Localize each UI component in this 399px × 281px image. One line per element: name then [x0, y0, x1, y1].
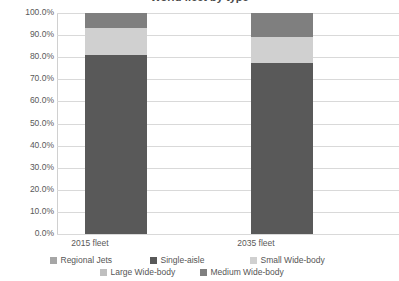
bar-segment[interactable] [85, 28, 147, 55]
legend-item[interactable]: Small Wide-body [250, 255, 350, 265]
x-axis-category-label: 2035 fleet [196, 238, 316, 248]
legend-swatch-icon [200, 269, 207, 276]
legend-item[interactable]: Medium Wide-body [200, 267, 300, 277]
gridline [57, 234, 399, 235]
y-axis-tick-label: 80.0% [2, 52, 54, 61]
legend-item-label: Regional Jets [61, 255, 113, 265]
bar-segment[interactable] [251, 37, 313, 62]
legend-item-label: Large Wide-body [111, 267, 176, 277]
legend-item[interactable]: Single-aisle [150, 255, 250, 265]
bar-column[interactable] [85, 13, 147, 234]
y-axis-tick-label: 20.0% [2, 185, 54, 194]
bar-segment[interactable] [251, 13, 313, 37]
bar-segment[interactable] [251, 63, 313, 234]
legend-item[interactable]: Regional Jets [50, 255, 150, 265]
bar-segment[interactable] [85, 13, 147, 28]
legend-item-label: Single-aisle [161, 255, 205, 265]
legend-row: Large Wide-bodyMedium Wide-body [100, 267, 300, 277]
legend-item[interactable]: Large Wide-body [100, 267, 200, 277]
x-axis-category-label: 2015 fleet [30, 238, 150, 248]
legend-swatch-icon [100, 269, 107, 276]
legend-row: Regional JetsSingle-aisleSmall Wide-body [50, 255, 350, 265]
y-axis-tick-label: 0.0% [2, 229, 54, 238]
chart-title: World fleet by type [0, 0, 399, 3]
y-axis-tick-label: 100.0% [2, 8, 54, 17]
bar-segment[interactable] [85, 55, 147, 234]
stacked-column-chart: World fleet by type 100.0%90.0%80.0%70.0… [0, 0, 399, 281]
bar-column[interactable] [251, 13, 313, 234]
chart-legend: Regional JetsSingle-aisleSmall Wide-body… [0, 255, 399, 277]
legend-item-label: Medium Wide-body [211, 267, 284, 277]
legend-item-label: Small Wide-body [261, 255, 325, 265]
y-axis-tick-label: 90.0% [2, 30, 54, 39]
y-axis-tick-label: 50.0% [2, 119, 54, 128]
y-axis-tick-label: 10.0% [2, 207, 54, 216]
y-axis-tick-label: 60.0% [2, 96, 54, 105]
y-axis-tick-label: 40.0% [2, 141, 54, 150]
legend-swatch-icon [250, 257, 257, 264]
plot-area [57, 13, 399, 234]
legend-swatch-icon [150, 257, 157, 264]
y-axis-tick-label: 30.0% [2, 163, 54, 172]
y-axis-tick-label: 70.0% [2, 74, 54, 83]
legend-swatch-icon [50, 257, 57, 264]
